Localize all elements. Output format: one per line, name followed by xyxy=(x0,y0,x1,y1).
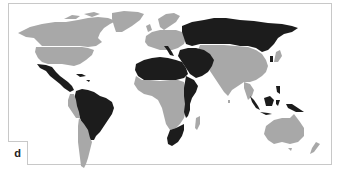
panel-label: d xyxy=(8,141,28,165)
europe xyxy=(145,13,186,50)
world-map xyxy=(0,0,337,182)
north-america xyxy=(18,11,144,66)
oceania xyxy=(264,114,320,154)
south-america xyxy=(68,89,114,168)
korea xyxy=(270,56,273,62)
mexico-central-america xyxy=(37,64,90,92)
asia xyxy=(198,45,282,103)
maritime-southeast-asia xyxy=(250,86,304,115)
